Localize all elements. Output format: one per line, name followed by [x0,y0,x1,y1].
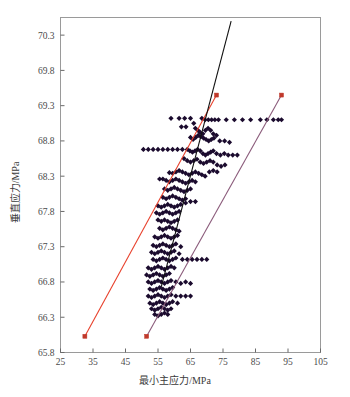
scatter-chart-figure: 253545556575859510565.866.366.867.367.86… [0,0,350,397]
x-tick-label: 85 [251,357,261,367]
x-tick-label: 25 [56,357,66,367]
x-tick-label: 55 [153,357,163,367]
y-tick-label: 68.3 [38,172,55,182]
y-tick-label: 70.3 [38,31,55,41]
y-tick-label: 65.8 [38,348,55,358]
y-tick-label: 66.3 [38,313,55,323]
y-tick-label: 67.8 [38,207,55,217]
x-tick-label: 45 [121,357,131,367]
y-tick-label: 69.8 [38,66,55,76]
trend-line-endpoint-marker [215,93,219,97]
plot-canvas: 253545556575859510565.866.366.867.367.86… [0,0,350,397]
x-tick-label: 95 [283,357,293,367]
trend-line-endpoint-marker [280,93,284,97]
trend-line-endpoint-marker [145,334,149,338]
y-axis-title: 垂直应力/MPa [7,133,22,253]
plot-frame [61,18,321,353]
y-tick-label: 66.8 [38,277,55,287]
x-tick-label: 75 [218,357,228,367]
trend-line-endpoint-marker [83,334,87,338]
y-tick-label: 67.3 [38,242,55,252]
x-tick-label: 105 [313,357,328,367]
x-tick-label: 35 [88,357,98,367]
y-tick-label: 68.8 [38,136,55,146]
x-tick-label: 65 [186,357,196,367]
x-axis-title: 最小主应力/MPa [0,372,350,387]
y-tick-label: 69.3 [38,101,55,111]
